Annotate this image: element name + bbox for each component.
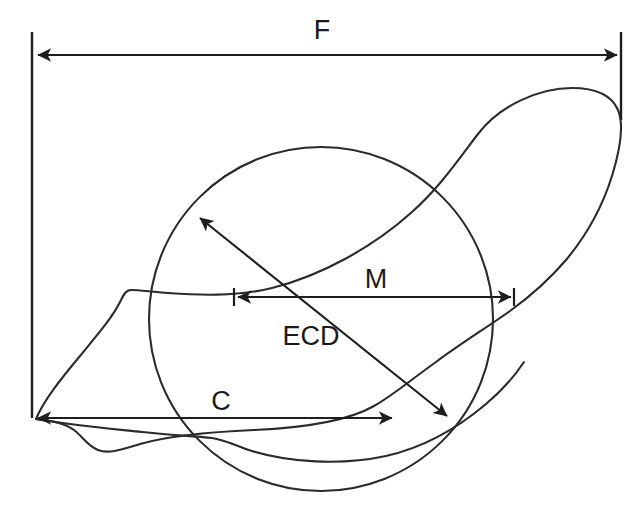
- feret-label: F: [314, 15, 331, 45]
- equivalent-circle: [149, 147, 493, 491]
- particle-size-diagram: F M C ECD: [0, 0, 644, 513]
- extension-lines-group: [32, 32, 621, 418]
- particle-outline-group: [36, 88, 621, 462]
- martin-label: M: [365, 264, 388, 294]
- ecd-dimension: ECD: [200, 218, 447, 416]
- feret-dimension: F: [38, 15, 617, 55]
- ecd-label: ECD: [282, 321, 339, 351]
- chord-dimension: C: [38, 386, 392, 418]
- martin-dimension: M: [234, 264, 514, 306]
- ecd-arrow-line: [200, 218, 447, 416]
- diagram-canvas: F M C ECD: [0, 0, 644, 513]
- chord-label: C: [211, 386, 231, 416]
- particle-outline-inner-ridge: [36, 362, 524, 462]
- particle-outline: [36, 88, 621, 452]
